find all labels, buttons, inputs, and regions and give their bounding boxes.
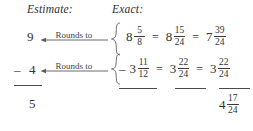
row2-common-numerator: 22 <box>178 58 190 68</box>
exact-answer: 4 17 24 <box>219 94 239 115</box>
math-figure: Estimate: Exact: 9 – 4 5 Rounds to Round… <box>0 0 253 131</box>
estimate-subtrahend-sign: – <box>14 62 21 78</box>
estimate-subtrahend: 4 <box>29 62 36 78</box>
row2-regrouped-denominator: 24 <box>218 69 230 79</box>
row2-original-mixed-number: – 3 11 12 <box>119 58 149 79</box>
row1-common-denominator: 24 <box>174 37 186 47</box>
row1-common-denominator-mixed-number: 8 15 24 <box>166 26 186 47</box>
exact-rule-common <box>175 88 206 89</box>
exact-row2: – 3 11 12 = 3 22 24 = 3 22 24 <box>119 58 230 79</box>
row1-original-whole: 8 <box>126 30 134 43</box>
estimate-subtraction-rule <box>14 85 42 86</box>
row1-original-denominator: 8 <box>136 37 143 47</box>
row2-equals-2: = <box>193 62 206 76</box>
row2-regrouped-mixed-number: 3 22 24 <box>210 58 230 79</box>
row2-common-denominator-mixed-number: 3 22 24 <box>170 58 190 79</box>
exact-rule-original <box>119 88 157 89</box>
rounds-to-arrow-bottom: Rounds to <box>40 53 108 75</box>
answer-numerator: 17 <box>227 94 239 104</box>
row2-regrouped-numerator: 22 <box>218 58 230 68</box>
exact-row1: 8 5 8 = 8 15 24 = 7 39 24 <box>126 26 226 47</box>
answer-denominator: 24 <box>227 105 239 115</box>
row1-common-fraction: 15 24 <box>174 26 186 47</box>
exact-column-heading: Exact: <box>112 3 143 15</box>
curly-brace-icon-top <box>110 22 121 56</box>
row2-original-whole: 3 <box>130 62 138 75</box>
answer-mixed-number: 4 17 24 <box>219 94 239 115</box>
row2-common-denominator: 24 <box>178 69 190 79</box>
row1-original-mixed-number: 8 5 8 <box>126 26 145 47</box>
row1-common-numerator: 15 <box>174 26 186 36</box>
row1-regrouped-denominator: 24 <box>214 37 226 47</box>
row1-regrouped-whole: 7 <box>206 30 214 43</box>
row1-equals-1: = <box>149 30 162 44</box>
arrow-left-icon-bottom <box>40 67 108 75</box>
row2-common-whole: 3 <box>170 62 178 75</box>
row1-original-numerator: 5 <box>136 26 143 36</box>
row1-common-whole: 8 <box>166 30 174 43</box>
estimate-column-heading: Estimate: <box>27 3 73 15</box>
row2-original-numerator: 11 <box>138 58 149 68</box>
row2-original-fraction: 11 12 <box>138 58 150 79</box>
row2-common-fraction: 22 24 <box>178 58 190 79</box>
row2-equals-1: = <box>153 62 166 76</box>
rounds-to-arrow-top: Rounds to <box>40 22 108 44</box>
row1-equals-2: = <box>189 30 202 44</box>
row2-regrouped-whole: 3 <box>210 62 218 75</box>
row2-original-denominator: 12 <box>138 69 150 79</box>
row1-regrouped-mixed-number: 7 39 24 <box>206 26 226 47</box>
exact-rule-regrouped <box>219 88 250 89</box>
row2-minus-sign: – <box>119 62 130 75</box>
estimate-minuend: 9 <box>27 29 34 45</box>
row1-regrouped-numerator: 39 <box>214 26 226 36</box>
row2-regrouped-fraction: 22 24 <box>218 58 230 79</box>
row1-regrouped-fraction: 39 24 <box>214 26 226 47</box>
answer-fraction: 17 24 <box>227 94 239 115</box>
row1-original-fraction: 5 8 <box>134 26 145 47</box>
arrow-left-icon-top <box>40 36 108 44</box>
answer-whole: 4 <box>219 98 227 111</box>
estimate-difference: 5 <box>29 96 36 112</box>
